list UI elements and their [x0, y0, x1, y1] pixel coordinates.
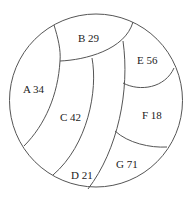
region-label-f: F 18 [142, 109, 162, 121]
region-label-e: E 56 [137, 54, 158, 66]
boundary-f-g [115, 131, 167, 147]
region-label-a: A 34 [23, 83, 45, 95]
boundary-e-f [123, 68, 174, 88]
region-label-c: C 42 [60, 111, 81, 123]
region-label-g: G 71 [116, 158, 138, 170]
region-label-d: D 21 [71, 169, 93, 181]
region-label-b: B 29 [78, 32, 100, 44]
partition-diagram: B 29 A 34 C 42 D 21 E 56 F 18 G 71 [0, 0, 188, 203]
